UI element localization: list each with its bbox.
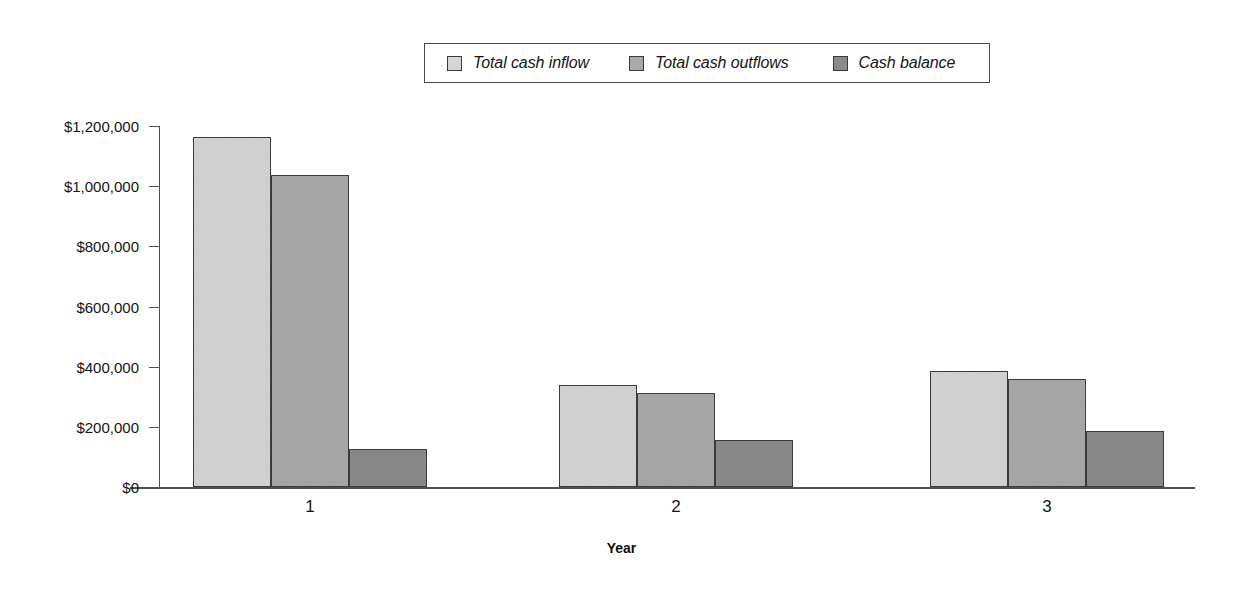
x-axis-tick-label: 2 — [616, 497, 736, 517]
bar — [193, 137, 271, 487]
y-axis-tick — [149, 367, 160, 368]
y-axis-tick-label: $0 — [29, 479, 139, 496]
y-axis-tick-label: $200,000 — [29, 418, 139, 435]
y-axis-tick-label: $400,000 — [29, 358, 139, 375]
y-axis-tick — [149, 427, 160, 428]
y-axis-tick — [149, 487, 160, 488]
x-axis-line — [130, 487, 1195, 489]
x-axis-title: Year — [0, 540, 1243, 556]
bar — [637, 393, 715, 487]
y-axis-tick-label: $1,200,000 — [29, 118, 139, 135]
bar — [271, 175, 349, 487]
y-axis-tick — [149, 126, 160, 127]
bar — [1086, 431, 1164, 487]
y-axis-tick-label: $600,000 — [29, 298, 139, 315]
y-axis-tick — [149, 307, 160, 308]
bar — [559, 385, 637, 487]
x-axis-tick-label: 3 — [987, 497, 1107, 517]
bar-chart: $0$200,000$400,000$600,000$800,000$1,000… — [0, 0, 1243, 591]
y-axis-tick — [149, 186, 160, 187]
bar — [349, 449, 427, 487]
y-axis-tick — [149, 246, 160, 247]
y-axis-tick-label: $800,000 — [29, 238, 139, 255]
bar — [715, 440, 793, 487]
x-axis-tick-label: 1 — [250, 497, 370, 517]
bar — [930, 371, 1008, 487]
bar — [1008, 379, 1086, 487]
y-axis-tick-label: $1,000,000 — [29, 178, 139, 195]
